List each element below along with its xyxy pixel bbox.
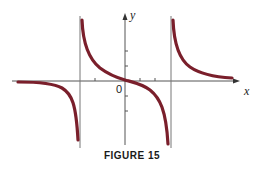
x-axis-label: x [244,84,249,99]
branch-left [18,82,78,140]
y-axis-arrow-icon [123,13,128,20]
figure: y x 0 FIGURE 15 [0,0,264,169]
branch-right [173,20,232,78]
origin-label: 0 [116,83,122,95]
figure-caption: FIGURE 15 [0,150,264,161]
x-axis-arrow-icon [233,79,240,84]
y-axis-label: y [130,8,135,23]
graph-canvas [0,0,264,169]
